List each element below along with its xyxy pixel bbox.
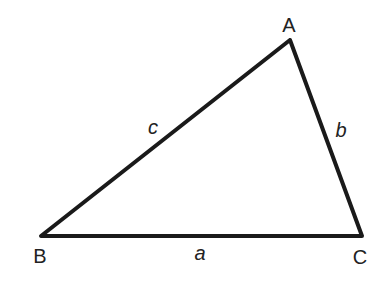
triangle-diagram: A B C a b c: [0, 0, 381, 286]
triangle-abc: [41, 40, 362, 236]
vertex-label-c: C: [353, 246, 367, 268]
vertex-label-b: B: [33, 245, 46, 267]
vertex-label-a: A: [282, 14, 296, 36]
side-label-c: c: [148, 116, 158, 138]
side-label-b: b: [335, 119, 346, 141]
side-label-a: a: [194, 242, 205, 264]
